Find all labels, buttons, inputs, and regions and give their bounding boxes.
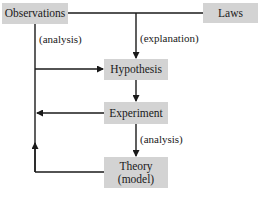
hypothesis-node: Hypothesis [104, 59, 168, 80]
observations-node: Observations [2, 3, 68, 24]
laws-label: Laws [218, 7, 243, 20]
observations-label: Observations [5, 7, 66, 20]
experiment-analysis-label: (analysis) [140, 133, 183, 145]
hypothesis-label: Hypothesis [110, 63, 162, 76]
observations-analysis-label: (analysis) [39, 33, 82, 45]
experiment-label: Experiment [109, 107, 163, 120]
theory-node: Theory (model) [104, 157, 168, 188]
theory-label: Theory [119, 160, 152, 173]
laws-explanation-label: (explanation) [140, 32, 199, 44]
laws-node: Laws [203, 3, 258, 23]
experiment-node: Experiment [104, 102, 168, 124]
theory-model-label: (model) [118, 173, 154, 186]
